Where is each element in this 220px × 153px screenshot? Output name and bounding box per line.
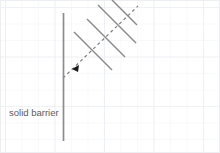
grid-major xyxy=(0,0,220,153)
solid-barrier-label: solid barrier xyxy=(9,107,59,119)
diagram-canvas xyxy=(0,0,220,153)
grid-layer xyxy=(0,0,220,153)
wave-barrier-diagram: solid barrier xyxy=(0,0,220,153)
